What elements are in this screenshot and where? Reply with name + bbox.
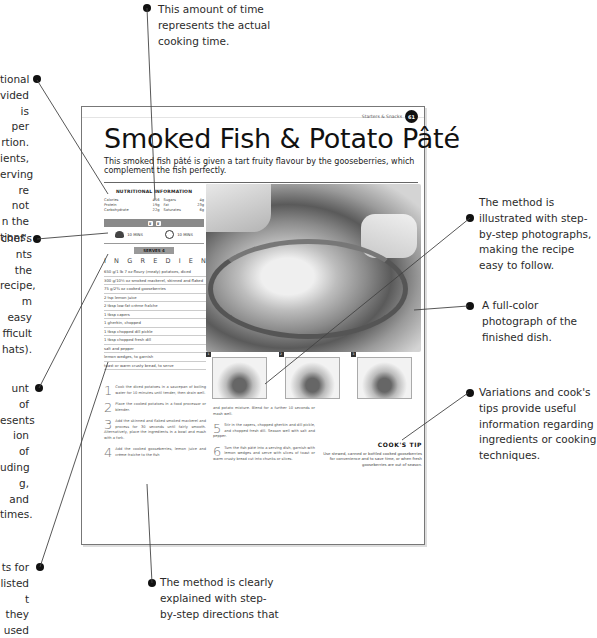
ingredient-item: 1 tbsp chopped dill pickle	[104, 328, 206, 337]
annotation-prep-time: unt of esents ion of uding g, and times.	[0, 381, 29, 523]
step-text: Stir in the capers, chopped gherkin and …	[213, 423, 315, 438]
page-number: 61	[405, 110, 418, 123]
ingredient-item: 300 g/10½ oz smoked mackerel, skinned an…	[104, 277, 206, 286]
recipe-title: Smoked Fish & Potato Pâté	[104, 123, 460, 154]
timing-row: 10 MINS 10 MINS	[104, 230, 204, 239]
step-photo: 1	[212, 357, 267, 399]
step-photo: 2	[285, 357, 340, 399]
chef-hat-icon: ♛	[156, 221, 161, 226]
ingredients-heading: INGREDIENTS	[104, 257, 206, 265]
step-text: and potato mixture. Blend for a further …	[213, 406, 315, 416]
callout-dot-method	[148, 579, 156, 587]
timing-rule	[104, 243, 204, 244]
annotation-difficulty: chef's nts the recipe, m easy fficult ha…	[0, 231, 32, 357]
ingredient-item: 75 g/2¾ oz cooked gooseberries	[104, 285, 206, 294]
method-step: 5Stir in the capers, chopped gherkin and…	[213, 423, 315, 440]
recipe-page: Starters & Snacks 61 Smoked Fish & Potat…	[81, 106, 425, 545]
callout-dot-cooks-tip	[466, 389, 474, 397]
method-step: 4Add the cooked gooseberries, lemon juic…	[104, 447, 206, 458]
callout-dot-ingredients	[36, 563, 44, 571]
method-step: 3Add the skinned and flaked smoked macke…	[104, 419, 206, 441]
callout-dot-step-photos	[466, 214, 474, 222]
cook-time-value: 10 MINS	[177, 232, 193, 237]
annotation-cooking-time: This amount of time represents the actua…	[158, 2, 298, 49]
ingredients-list: 650 g/1 lb 7 oz floury (mealy) potatoes,…	[104, 268, 206, 370]
nutrient-value: 6g	[192, 207, 204, 212]
ingredient-item: 1 gherkin, chopped	[104, 319, 206, 328]
step-photo-label: 2	[279, 352, 284, 357]
ingredient-item: 2 tsp lemon juice	[104, 294, 206, 303]
running-head: Starters & Snacks 61	[362, 110, 418, 123]
callout-dot-difficulty	[33, 235, 41, 243]
method-step: 6Turn the fish pâté into a serving dish,…	[213, 446, 315, 463]
ingredient-item: salt and pepper	[104, 345, 206, 354]
step-text: Place the cooked potatoes in a food proc…	[115, 402, 206, 412]
nutrient-label: Saturates	[163, 207, 192, 212]
chef-hat-icon: ♛	[148, 221, 153, 226]
nutrition-row: Carbohydrate 22g Saturates 6g	[104, 207, 204, 212]
method-column-2: and potato mixture. Blend for a further …	[213, 406, 315, 468]
serves-badge: SERVES 4	[134, 247, 174, 254]
step-photo-label: 3	[351, 352, 356, 357]
annotation-full-color-photo: A full-color photograph of the finished …	[482, 298, 594, 345]
title-rule	[104, 182, 418, 183]
annotation-method: The method is clearly explained with ste…	[160, 575, 280, 622]
ingredient-item: 650 g/1 lb 7 oz floury (mealy) potatoes,…	[104, 268, 206, 277]
method-step: and potato mixture. Blend for a further …	[213, 406, 315, 417]
step-photo-label: 1	[206, 352, 211, 357]
step-text: Turn the fish pâté into a serving dish, …	[213, 446, 315, 461]
annotation-step-photos: The method is illustrated with step-by-s…	[479, 195, 597, 274]
step-text: Add the cooked gooseberries, lemon juice…	[115, 447, 206, 457]
ingredient-item: toast or warm crusty bread, to serve	[104, 362, 206, 371]
callout-dot-prep-time	[35, 384, 43, 392]
callout-dot-nutrition	[33, 75, 41, 83]
nutrient-label: Carbohydrate	[104, 207, 145, 212]
prep-time-value: 10 MINS	[127, 232, 143, 237]
ingredient-item: 2 tbsp low-fat crème fraîche	[104, 302, 206, 311]
annotation-nutrition: tional vided is per rtion. ients, erving…	[0, 72, 29, 246]
step-text: Cook the diced potatoes in a saucepan of…	[115, 385, 206, 395]
section-name: Starters & Snacks	[362, 114, 402, 119]
method-step: 1Cook the diced potatoes in a saucepan o…	[104, 385, 206, 396]
annotation-ingredients: ts for listed t they used	[0, 560, 29, 638]
cooks-tip-heading: COOK'S TIP	[322, 441, 422, 448]
step-number: 4	[104, 447, 112, 458]
bread-shape	[206, 184, 271, 232]
ingredient-item: 1 tbsp capers	[104, 311, 206, 320]
nutrient-value: 22g	[145, 207, 163, 212]
cooks-tip-text: Use stewed, canned or bottled cooked goo…	[322, 451, 422, 467]
step-number: 1	[104, 385, 112, 396]
step-text: Add the skinned and flaked smoked macker…	[104, 419, 206, 440]
clock-icon	[165, 230, 174, 239]
ingredient-item: lemon wedges, to garnish	[104, 353, 206, 362]
prep-bowl-icon	[115, 231, 124, 238]
callout-dot-full-photo	[466, 302, 474, 310]
cooks-tip-box: COOK'S TIP Use stewed, canned or bottled…	[322, 441, 422, 467]
step-number: 5	[213, 423, 221, 434]
difficulty-bar: ♛ ♛	[104, 219, 204, 227]
method-step: 2Place the cooked potatoes in a food pro…	[104, 402, 206, 413]
step-number: 6	[213, 446, 221, 457]
annotation-cooks-tip: Variations and cook's tips provide usefu…	[479, 385, 597, 464]
prep-time: 10 MINS	[115, 231, 143, 238]
step-photos: 1 2 3	[212, 357, 412, 399]
recipe-subtitle: This smoked fish pâté is given a tart fr…	[104, 157, 424, 175]
nutrition-panel: NUTRITIONAL INFORMATION Calories 416 Sug…	[104, 189, 204, 213]
nutrition-table: Calories 416 Sugars 4g Protein 19g Fat 2…	[104, 197, 204, 213]
method-column-1: 1Cook the diced potatoes in a saucepan o…	[104, 385, 206, 464]
finished-dish-photo	[206, 184, 421, 352]
nutrition-heading: NUTRITIONAL INFORMATION	[104, 189, 204, 194]
callout-dot-cooking-time	[143, 4, 151, 12]
ingredient-item: 1 tbsp chopped fresh dill	[104, 336, 206, 345]
step-number: 3	[104, 419, 112, 430]
step-photo: 3	[357, 357, 412, 399]
bowl-shape	[208, 239, 408, 339]
step-number: 2	[104, 402, 112, 413]
cook-time: 10 MINS	[165, 230, 193, 239]
